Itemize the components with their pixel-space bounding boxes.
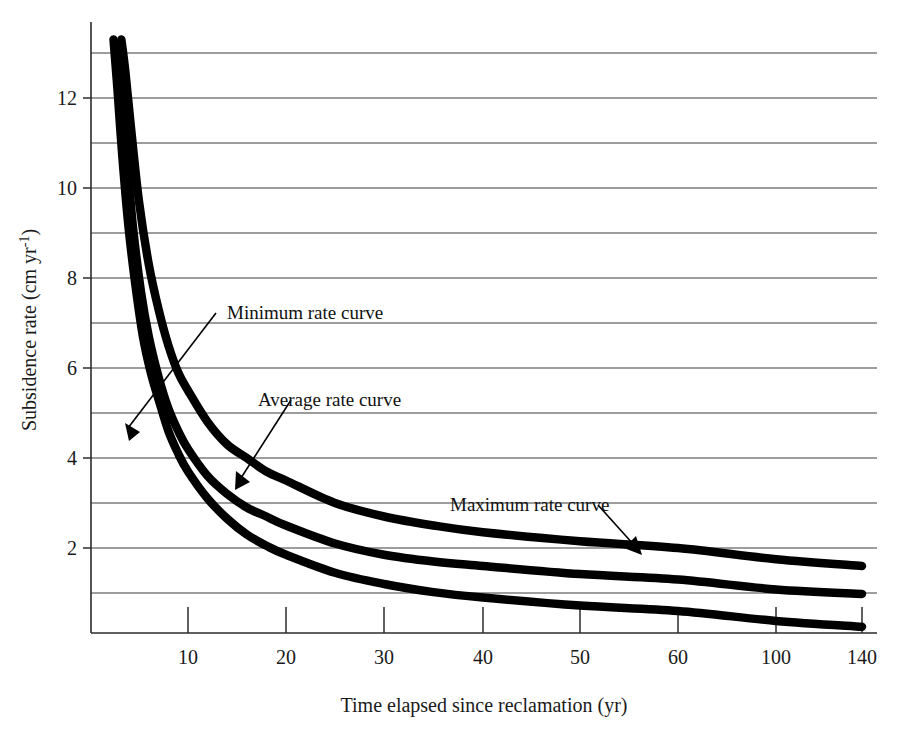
annotation-label-average: Average rate curve: [258, 389, 401, 410]
chart-background: [0, 0, 903, 743]
x-tick-label-30: 30: [374, 646, 394, 668]
y-axis-title-superscript: -1: [17, 236, 32, 248]
x-tick-label-140: 140: [847, 646, 877, 668]
x-tick-label-40: 40: [473, 646, 493, 668]
y-tick-label-4: 4: [67, 447, 77, 469]
y-axis-title-tail: ): [18, 229, 41, 236]
annotation-label-maximum: Maximum rate curve: [450, 494, 609, 515]
y-axis-title: Subsidence rate (cm yr-1): [17, 229, 41, 431]
y-tick-label-2: 2: [67, 537, 77, 559]
y-tick-label-8: 8: [67, 267, 77, 289]
subsidence-rate-chart: 102030405060100140 24681012 Minimum rate…: [0, 0, 903, 743]
chart-canvas: 102030405060100140 24681012 Minimum rate…: [0, 0, 903, 743]
svg-text:Subsidence rate (cm yr-1): Subsidence rate (cm yr-1): [17, 229, 41, 431]
y-axis-title-main: Subsidence rate (cm yr: [18, 247, 41, 431]
x-axis-title: Time elapsed since reclamation (yr): [341, 694, 628, 717]
y-tick-label-10: 10: [57, 177, 77, 199]
x-tick-label-60: 60: [668, 646, 688, 668]
y-tick-label-6: 6: [67, 357, 77, 379]
x-tick-label-50: 50: [570, 646, 590, 668]
x-tick-label-10: 10: [178, 646, 198, 668]
y-tick-label-12: 12: [57, 87, 77, 109]
x-tick-label-100: 100: [761, 646, 791, 668]
annotation-label-minimum: Minimum rate curve: [227, 302, 383, 323]
x-tick-label-20: 20: [276, 646, 296, 668]
